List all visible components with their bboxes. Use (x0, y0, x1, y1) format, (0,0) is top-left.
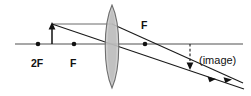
point-marker-f-left (72, 42, 77, 47)
object-arrow-head (49, 22, 56, 30)
point-marker-2f-left (36, 42, 41, 47)
point-marker-f-right (143, 42, 148, 47)
image-arrow-head (187, 63, 194, 71)
label-f-right: F (141, 20, 147, 31)
refracted-ray-direction-arrow (208, 77, 217, 83)
label-2f-left: 2F (31, 58, 43, 69)
ray-diagram-canvas (0, 0, 251, 96)
label-image: (image) (199, 55, 236, 66)
label-f-left: F (70, 58, 76, 69)
ray-diagram-figure: 2F F F (image) (0, 0, 251, 96)
